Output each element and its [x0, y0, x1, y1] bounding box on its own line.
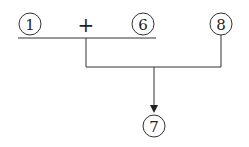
arrowhead-icon [150, 105, 158, 113]
plus-operator: + [78, 13, 95, 37]
node-6-label: 6 [138, 16, 148, 34]
node-1-label: 1 [25, 16, 35, 34]
node-7-label: 7 [149, 118, 159, 136]
node-6: 6 [132, 13, 154, 35]
node-8-label: 8 [216, 16, 226, 34]
diagram-svg: 1 + 6 8 7 [0, 0, 249, 147]
node-1: 1 [19, 13, 41, 35]
node-8: 8 [210, 13, 232, 35]
flow-diagram: 1 + 6 8 7 [0, 0, 249, 147]
node-7: 7 [143, 115, 165, 137]
